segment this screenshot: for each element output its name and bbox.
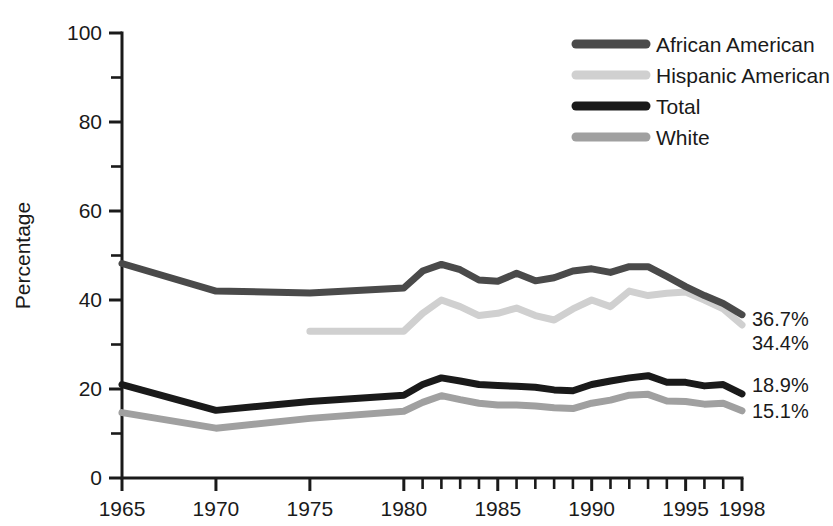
y-tick-label: 0 <box>90 466 102 489</box>
y-tick-label: 80 <box>79 110 102 133</box>
y-axis-label: Percentage <box>11 202 34 309</box>
y-tick-label: 40 <box>79 288 102 311</box>
chart-figure: 0204060801001965197019751980198519901995… <box>0 0 833 526</box>
endpoint-label-white: 15.1% <box>752 400 809 422</box>
legend-label-total: Total <box>656 95 700 118</box>
x-tick-label: 1975 <box>287 497 334 520</box>
series-lines <box>122 264 742 429</box>
x-tick-label: 1995 <box>662 497 709 520</box>
endpoint-label-african-american: 36.7% <box>752 308 809 330</box>
x-tick-label: 1970 <box>193 497 240 520</box>
y-tick-label: 20 <box>79 377 102 400</box>
y-tick-label: 60 <box>79 199 102 222</box>
endpoint-label-hispanic-american: 34.4% <box>752 332 809 354</box>
legend-label-hispanic-american: Hispanic American <box>656 64 830 87</box>
x-tick-label: 1985 <box>474 497 521 520</box>
x-tick-label: 1980 <box>380 497 427 520</box>
legend-label-white: White <box>656 126 710 149</box>
line-chart: 0204060801001965197019751980198519901995… <box>0 0 833 526</box>
legend-label-african-american: African American <box>656 33 815 56</box>
x-tick-label: 1998 <box>719 497 766 520</box>
chart-legend: African AmericanHispanic AmericanTotalWh… <box>576 33 830 149</box>
endpoint-label-total: 18.9% <box>752 374 809 396</box>
series-line-hispanic-american <box>310 291 742 331</box>
y-tick-label: 100 <box>67 21 102 44</box>
x-tick-label: 1965 <box>99 497 146 520</box>
endpoint-labels: 36.7%34.4%18.9%15.1% <box>752 308 809 422</box>
x-tick-label: 1990 <box>568 497 615 520</box>
